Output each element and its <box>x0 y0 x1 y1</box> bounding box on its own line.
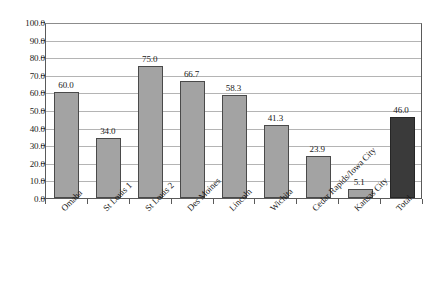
bar-value-label: 60.0 <box>44 81 88 90</box>
plot-area <box>45 23 422 199</box>
x-axis-tick-mark <box>213 199 214 204</box>
y-axis-tick-label: 30.0 <box>5 142 45 151</box>
bar-value-label: 75.0 <box>128 55 172 64</box>
bar-chart: 0.010.020.030.040.050.060.070.080.090.01… <box>0 0 440 290</box>
x-axis-tick-mark <box>45 199 46 204</box>
bar-lincoln <box>222 95 247 198</box>
bar-des-moines <box>180 81 205 198</box>
y-axis-tick-label: 40.0 <box>5 124 45 133</box>
y-axis-tick-label: 10.0 <box>5 177 45 186</box>
y-axis-tick-label: 0.0 <box>5 195 45 204</box>
y-axis-tick-label: 60.0 <box>5 89 45 98</box>
x-axis-tick-mark <box>171 199 172 204</box>
bar-value-label: 58.3 <box>212 84 256 93</box>
y-axis-tick-label: 20.0 <box>5 159 45 168</box>
gridline <box>46 58 421 59</box>
x-axis-tick-mark <box>254 199 255 204</box>
y-axis-tick-label: 80.0 <box>5 54 45 63</box>
bar-omaha <box>54 92 79 198</box>
y-axis-tick-label: 90.0 <box>5 36 45 45</box>
gridline <box>46 76 421 77</box>
bar-total <box>390 117 415 198</box>
bar-st-louis-2 <box>138 66 163 198</box>
y-axis: 0.010.020.030.040.050.060.070.080.090.01… <box>0 0 45 290</box>
x-axis-tick-mark <box>87 199 88 204</box>
bar-value-label: 23.9 <box>295 145 339 154</box>
gridline <box>46 41 421 42</box>
y-axis-tick-label: 100.0 <box>5 19 45 28</box>
bar-value-label: 46.0 <box>379 106 423 115</box>
bar-value-label: 66.7 <box>170 70 214 79</box>
y-axis-tick-label: 50.0 <box>5 107 45 116</box>
bar-value-label: 34.0 <box>86 127 130 136</box>
x-axis-tick-mark <box>380 199 381 204</box>
bar-value-label: 41.3 <box>253 114 297 123</box>
y-axis-tick-label: 70.0 <box>5 71 45 80</box>
x-axis-tick-mark <box>422 199 423 204</box>
x-axis-tick-mark <box>129 199 130 204</box>
x-axis-tick-mark <box>338 199 339 204</box>
gridline <box>46 93 421 94</box>
x-axis-tick-mark <box>296 199 297 204</box>
